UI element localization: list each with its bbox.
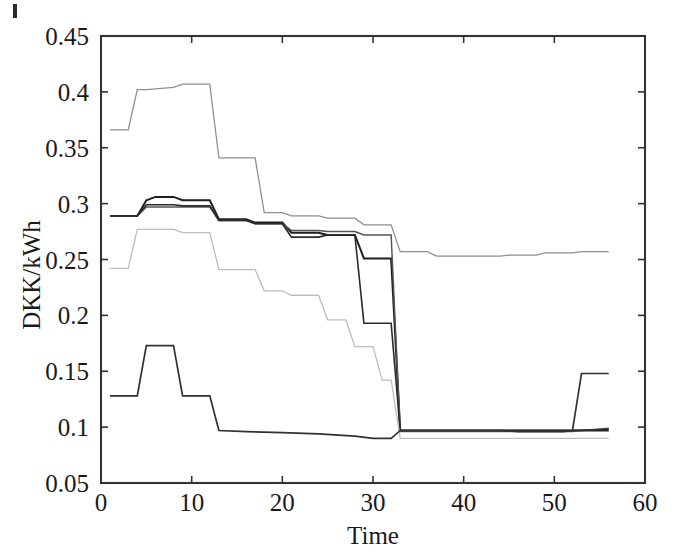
data-series-group: [110, 84, 609, 438]
line-chart-plot: 0102030405060 0.050.10.150.20.250.30.350…: [0, 0, 683, 558]
series-line-series-5-light-band: [110, 229, 609, 438]
series-line-series-1-upper: [110, 84, 609, 256]
y-tick-label: 0.2: [58, 302, 89, 329]
series-line-series-6-lower-dark: [110, 346, 609, 439]
y-axis-title: DKK/kWh: [18, 220, 45, 330]
y-tick-label: 0.35: [45, 135, 89, 162]
x-tick-label: 60: [633, 489, 658, 516]
y-tick-label: 0.4: [58, 79, 90, 106]
plot-frame: [101, 36, 645, 483]
scan-edge-mark: [13, 4, 17, 18]
x-tick-labels: 0102030405060: [95, 489, 658, 516]
y-tick-label: 0.05: [45, 470, 89, 497]
y-tick-label: 0.45: [45, 23, 89, 50]
x-tick-label: 50: [542, 489, 567, 516]
x-tick-label: 40: [451, 489, 476, 516]
y-tick-label: 0.15: [45, 358, 89, 385]
y-axis-ticks: [101, 36, 645, 483]
series-line-series-3-mid-gray: [110, 207, 609, 432]
x-tick-label: 10: [179, 489, 204, 516]
chart-figure: 0102030405060 0.050.10.150.20.250.30.350…: [0, 0, 683, 558]
x-tick-label: 20: [270, 489, 295, 516]
y-tick-label: 0.1: [58, 414, 89, 441]
y-tick-label: 0.25: [45, 247, 89, 274]
y-tick-label: 0.3: [58, 191, 89, 218]
x-tick-label: 30: [361, 489, 386, 516]
x-axis-title: Time: [347, 522, 399, 549]
y-tick-labels: 0.050.10.150.20.250.30.350.40.45: [45, 23, 89, 497]
x-axis-ticks: [101, 36, 645, 483]
x-tick-label: 0: [95, 489, 108, 516]
